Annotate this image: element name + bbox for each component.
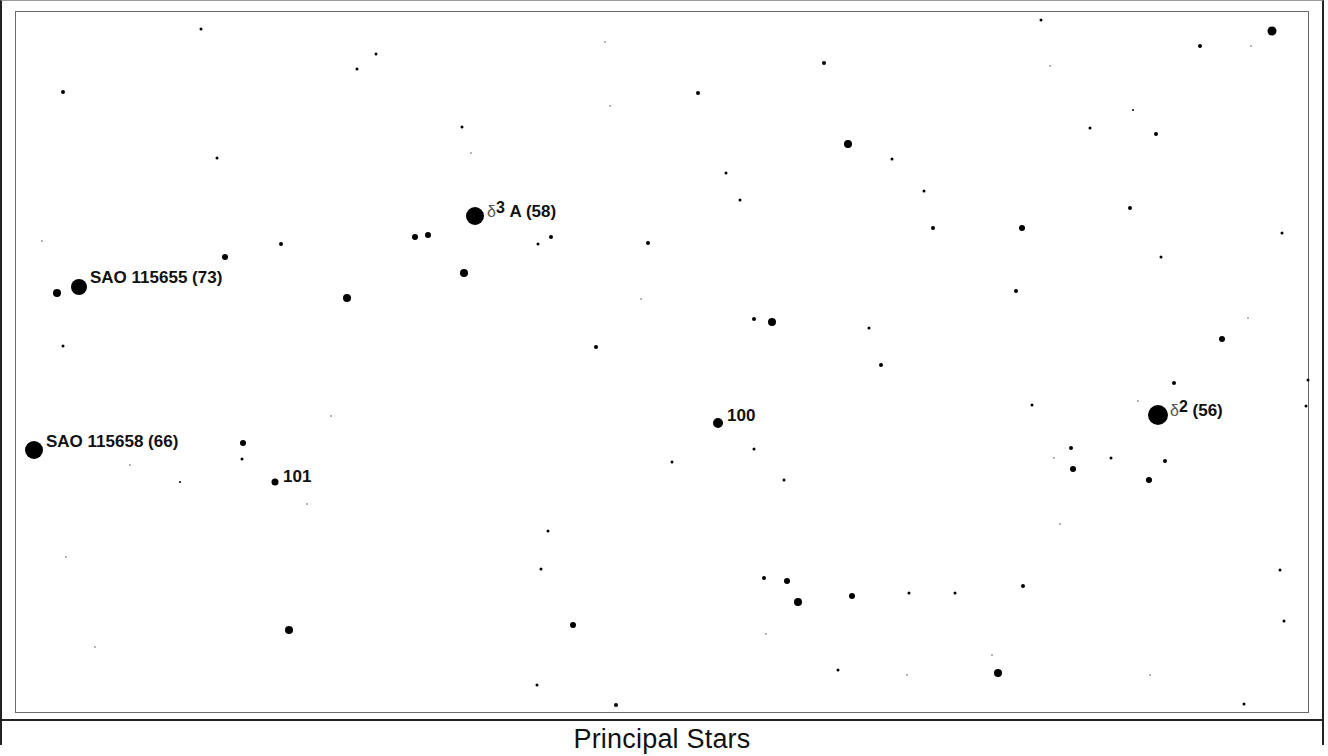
star-dot-icon [1110, 457, 1113, 460]
star-dot-icon [822, 61, 826, 65]
star-dot-icon [1149, 674, 1151, 676]
star-dot-icon [604, 41, 606, 43]
star-dot-icon [540, 568, 543, 571]
star-dot-icon [908, 592, 911, 595]
greek-letter: δ [487, 203, 496, 220]
star-dot-icon [94, 646, 96, 648]
star-dot-icon [784, 578, 790, 584]
star-dot-icon [25, 441, 43, 459]
star-dot-icon [1172, 381, 1176, 385]
star-label-delta3-a: δ3 A (58) [487, 198, 556, 222]
star-dot-icon [343, 294, 351, 302]
star-dot-icon [891, 158, 894, 161]
star-dot-icon [1031, 404, 1034, 407]
label-text: (56) [1188, 401, 1223, 420]
star-dot-icon [330, 415, 332, 417]
star-dot-icon [609, 105, 611, 107]
star-dot-icon [1059, 523, 1061, 525]
star-dot-icon [646, 241, 650, 245]
star-dot-icon [696, 91, 700, 95]
greek-letter: δ [1170, 402, 1179, 419]
label-text: 101 [283, 467, 311, 486]
star-chart-frame [15, 11, 1309, 713]
star-dot-icon [461, 126, 464, 129]
star-dot-icon [739, 199, 742, 202]
star-dot-icon [1019, 225, 1025, 231]
star-dot-icon [752, 317, 756, 321]
star-dot-icon [470, 152, 472, 154]
star-dot-icon [537, 243, 540, 246]
star-dot-icon [61, 90, 65, 94]
star-dot-icon [1198, 44, 1202, 48]
star-dot-icon [783, 479, 786, 482]
star-dot-icon [765, 633, 767, 635]
star-dot-icon [844, 140, 852, 148]
component-superscript: 2 [1179, 398, 1188, 415]
star-dot-icon [1128, 206, 1132, 210]
star-dot-icon [62, 345, 65, 348]
star-dot-icon [906, 674, 908, 676]
star-dot-icon [879, 363, 883, 367]
star-dot-icon [1250, 45, 1252, 47]
label-text: SAO 115658 (66) [46, 432, 178, 451]
star-dot-icon [216, 157, 219, 160]
star-dot-icon [222, 254, 228, 260]
star-dot-icon [1132, 109, 1134, 111]
star-dot-icon [1146, 477, 1152, 483]
star-dot-icon [240, 440, 246, 446]
star-dot-icon [991, 654, 993, 656]
star-dot-icon [1021, 584, 1025, 588]
star-dot-icon [994, 669, 1002, 677]
star-dot-icon [547, 530, 550, 533]
star-dot-icon [425, 232, 431, 238]
star-dot-icon [1040, 19, 1043, 22]
star-dot-icon [241, 458, 244, 461]
star-dot-icon [931, 226, 935, 230]
star-dot-icon [1089, 127, 1092, 130]
star-dot-icon [570, 622, 576, 628]
star-dot-icon [375, 53, 378, 56]
star-dot-icon [1243, 703, 1246, 706]
star-dot-icon [279, 242, 283, 246]
star-dot-icon [594, 345, 598, 349]
star-dot-icon [1053, 457, 1055, 459]
label-text: SAO 115655 (73) [90, 268, 222, 287]
star-dot-icon [1163, 459, 1167, 463]
star-dot-icon [536, 684, 539, 687]
star-dot-icon [1281, 232, 1284, 235]
star-dot-icon [725, 172, 728, 175]
star-label-sao-115658: SAO 115658 (66) [46, 432, 178, 452]
label-text: 100 [727, 406, 755, 425]
star-dot-icon [1137, 400, 1139, 402]
star-dot-icon [53, 289, 61, 297]
star-dot-icon [129, 464, 131, 466]
star-dot-icon [200, 28, 203, 31]
label-text: A (58) [505, 202, 556, 221]
star-dot-icon [1070, 466, 1076, 472]
chart-caption: Principal Stars [0, 722, 1324, 756]
component-superscript: 3 [496, 199, 505, 216]
star-dot-icon [306, 503, 308, 505]
star-dot-icon [1014, 289, 1018, 293]
star-dot-icon [356, 68, 359, 71]
star-dot-icon [1305, 405, 1308, 408]
star-dot-icon [466, 207, 484, 225]
star-dot-icon [614, 703, 618, 707]
star-dot-icon [1154, 132, 1158, 136]
star-dot-icon [753, 448, 756, 451]
star-dot-icon [1160, 256, 1163, 259]
star-dot-icon [41, 240, 43, 242]
star-dot-icon [179, 481, 181, 483]
star-dot-icon [794, 598, 802, 606]
star-label-sao-115655: SAO 115655 (73) [90, 268, 222, 288]
star-label-star-100: 100 [727, 406, 755, 426]
star-dot-icon [640, 298, 642, 300]
star-dot-icon [1219, 336, 1225, 342]
star-dot-icon [272, 479, 279, 486]
star-dot-icon [412, 234, 418, 240]
star-label-star-101: 101 [283, 467, 311, 487]
caption-divider [0, 719, 1324, 721]
star-dot-icon [460, 269, 468, 277]
star-dot-icon [768, 318, 776, 326]
star-dot-icon [1283, 620, 1286, 623]
